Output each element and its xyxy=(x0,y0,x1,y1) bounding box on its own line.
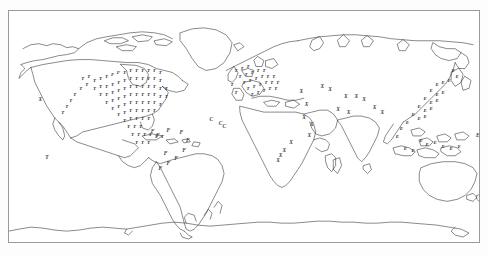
svg-text:T: T xyxy=(117,104,121,109)
svg-text:T: T xyxy=(141,100,145,105)
svg-text:T: T xyxy=(129,84,133,89)
svg-text:E: E xyxy=(450,68,455,73)
svg-text:T: T xyxy=(111,82,115,87)
svg-text:T: T xyxy=(260,74,264,79)
svg-text:T: T xyxy=(231,82,235,87)
svg-text:T: T xyxy=(153,84,157,89)
world-map-canvas[interactable]: TTT FFT TTT TTT TTT TTT TTT TTT TTT TTT … xyxy=(9,11,479,242)
svg-text:E: E xyxy=(395,134,400,139)
svg-text:E: E xyxy=(440,144,445,149)
svg-text:T: T xyxy=(147,84,151,89)
svg-text:E: E xyxy=(435,98,440,103)
svg-text:T: T xyxy=(129,68,133,73)
map-point-marker: F xyxy=(180,129,184,135)
svg-text:T: T xyxy=(246,86,250,91)
svg-text:T: T xyxy=(147,116,151,121)
svg-text:T: T xyxy=(159,78,163,83)
svg-text:T: T xyxy=(123,118,127,123)
svg-text:T: T xyxy=(105,74,109,79)
svg-text:T: T xyxy=(99,76,103,81)
map-point-marker: F xyxy=(159,165,163,171)
svg-text:T: T xyxy=(165,94,169,99)
svg-text:E: E xyxy=(435,82,440,87)
svg-text:T: T xyxy=(141,92,145,97)
svg-text:T: T xyxy=(270,80,274,85)
svg-text:T: T xyxy=(87,74,91,79)
svg-text:T: T xyxy=(262,88,266,93)
svg-text:E: E xyxy=(435,92,440,97)
svg-text:T: T xyxy=(117,112,121,117)
svg-text:E: E xyxy=(433,140,438,145)
svg-text:T: T xyxy=(117,88,121,93)
map-frame: TTT FFT TTT TTT TTT TTT TTT TTT TTT TTT … xyxy=(8,10,480,243)
svg-text:T: T xyxy=(81,76,85,81)
svg-text:E: E xyxy=(411,112,416,117)
svg-text:T: T xyxy=(266,74,270,79)
svg-text:T: T xyxy=(153,68,157,73)
svg-text:T: T xyxy=(135,140,139,145)
svg-text:T: T xyxy=(129,108,133,113)
svg-text:T: T xyxy=(135,116,139,121)
svg-text:T: T xyxy=(131,132,135,137)
map-point-marker: X xyxy=(304,101,309,107)
map-point-marker: X xyxy=(38,96,43,102)
point-marker-layer: XTECCCXXXXXXXXXXXXXXXXXXFFFFFFFFFF xyxy=(38,83,479,171)
svg-text:T: T xyxy=(147,76,151,81)
map-point-marker: X xyxy=(335,106,340,112)
map-point-marker: F xyxy=(166,127,170,133)
svg-text:T: T xyxy=(159,86,163,91)
svg-text:T: T xyxy=(133,124,137,129)
svg-text:T: T xyxy=(135,68,139,73)
map-point-marker: X xyxy=(380,109,385,115)
svg-text:T: T xyxy=(256,68,260,73)
map-point-marker: X xyxy=(299,88,304,94)
map-point-marker: F xyxy=(156,132,160,138)
svg-text:T: T xyxy=(262,68,266,73)
svg-text:T: T xyxy=(105,84,109,89)
svg-text:T: T xyxy=(85,82,89,87)
svg-text:T: T xyxy=(135,100,139,105)
svg-text:T: T xyxy=(61,110,65,115)
svg-text:E: E xyxy=(423,108,428,113)
svg-text:T: T xyxy=(153,76,157,81)
svg-text:T: T xyxy=(123,110,127,115)
top-caption xyxy=(4,0,164,8)
svg-text:T: T xyxy=(111,90,115,95)
svg-text:T: T xyxy=(153,92,157,97)
svg-text:E: E xyxy=(429,100,434,105)
map-point-marker: F xyxy=(186,137,190,143)
svg-text:T: T xyxy=(123,86,127,91)
svg-text:T: T xyxy=(147,108,151,113)
svg-text:T: T xyxy=(137,132,141,137)
svg-text:T: T xyxy=(264,80,268,85)
svg-text:E: E xyxy=(417,104,422,109)
map-point-marker: C xyxy=(223,123,227,129)
svg-text:T: T xyxy=(240,66,244,71)
svg-text:E: E xyxy=(419,138,424,143)
svg-text:E: E xyxy=(429,88,434,93)
svg-text:T: T xyxy=(105,100,109,105)
svg-text:T: T xyxy=(69,98,73,103)
svg-text:T: T xyxy=(129,116,133,121)
svg-text:T: T xyxy=(141,108,145,113)
svg-text:T: T xyxy=(111,98,115,103)
svg-text:T: T xyxy=(147,68,151,73)
map-point-marker: X xyxy=(301,114,306,120)
svg-text:T: T xyxy=(235,90,239,95)
svg-text:T: T xyxy=(147,92,151,97)
svg-text:T: T xyxy=(111,106,115,111)
svg-text:T: T xyxy=(141,76,145,81)
svg-text:T: T xyxy=(248,78,252,83)
svg-text:T: T xyxy=(105,92,109,97)
svg-text:T: T xyxy=(135,92,139,97)
svg-text:T: T xyxy=(123,70,127,75)
world-map-svg: TTT FFT TTT TTT TTT TTT TTT TTT TTT TTT … xyxy=(9,11,479,242)
coastlines-layer xyxy=(9,28,479,239)
svg-text:E: E xyxy=(405,120,410,125)
svg-text:T: T xyxy=(127,124,131,129)
map-point-marker: F xyxy=(182,147,186,153)
svg-text:T: T xyxy=(129,76,133,81)
svg-text:T: T xyxy=(123,102,127,107)
svg-text:T: T xyxy=(143,132,147,137)
svg-text:T: T xyxy=(141,68,145,73)
